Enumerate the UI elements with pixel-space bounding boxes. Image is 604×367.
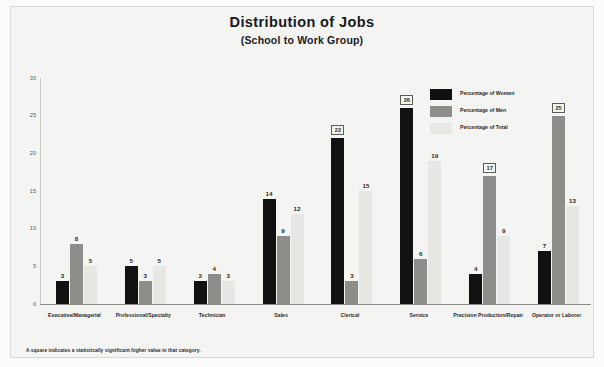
bar-men [277,236,290,304]
bar-value-label: 14 [256,190,282,197]
legend-item: Percentage of Total [430,122,570,139]
legend-item: Percentage of Women [430,88,570,105]
x-category-label: Professional/Specialty [109,312,178,318]
y-tick-label: 0 [16,301,36,307]
bar-value-label: 13 [560,197,586,204]
bar-men [414,259,427,304]
chart-footnote: A square indicates a statistically signi… [26,348,201,353]
chart-subtitle: (School to Work Group) [0,34,604,46]
bar-women [469,274,482,304]
legend-item: Percentage of Men [430,105,570,122]
bar-value-label: 17 [483,163,496,173]
bar-total [359,191,372,304]
bar-women [263,199,276,304]
bar-value-label: 5 [118,257,144,264]
bar-total [84,266,97,304]
bar-total [566,206,579,304]
legend-swatch [430,106,452,117]
bar-value-label: 8 [63,235,89,242]
bar-women [400,108,413,304]
bar-women [56,281,69,304]
chart-figure: Distribution of Jobs (School to Work Gro… [0,0,604,367]
x-category-label: Service [384,312,453,318]
bar-men [552,116,565,304]
x-axis-line [40,304,591,305]
chart-title: Distribution of Jobs [0,14,604,30]
bar-men [139,281,152,304]
bar-group: 14912 [263,78,304,304]
legend-label: Percentage of Total [460,124,508,130]
y-tick-label: 30 [16,75,36,81]
x-category-label: Operator or Laborer [522,312,591,318]
bar-men [70,244,83,304]
bar-total [222,281,235,304]
bar-value-label: 26 [400,95,413,105]
legend-label: Percentage of Women [460,90,514,96]
bar-group: 385 [56,78,97,304]
bar-total [497,236,510,304]
legend-swatch [430,123,452,134]
y-tick-label: 10 [16,225,36,231]
bar-group: 535 [125,78,166,304]
x-category-label: Sales [247,312,316,318]
bar-total [428,161,441,304]
y-tick-label: 20 [16,150,36,156]
legend-label: Percentage of Men [460,107,506,113]
bar-value-label: 5 [146,257,172,264]
legend-swatch [430,89,452,100]
bar-women [538,251,551,304]
bar-men [483,176,496,304]
bar-value-label: 15 [353,182,379,189]
x-category-label: Executive/Managerial [40,312,109,318]
bar-men [345,281,358,304]
bar-total [153,266,166,304]
bar-value-label: 22 [331,125,344,135]
y-tick-label: 5 [16,263,36,269]
bar-value-label: 12 [284,205,310,212]
y-tick-label: 25 [16,112,36,118]
chart-legend: Percentage of WomenPercentage of MenPerc… [430,88,570,139]
bar-value-label: 5 [77,257,103,264]
bar-value-label: 4 [201,265,227,272]
x-category-label: Technician [178,312,247,318]
bar-group: 22315 [331,78,372,304]
bar-value-label: 19 [422,152,448,159]
bar-value-label: 3 [215,272,241,279]
bar-women [194,281,207,304]
x-category-label: Precision Production/Repair [453,312,522,318]
y-tick-label: 15 [16,188,36,194]
bar-group: 343 [194,78,235,304]
x-category-label: Clerical [316,312,385,318]
bar-total [291,214,304,304]
bar-value-label: 9 [491,227,517,234]
